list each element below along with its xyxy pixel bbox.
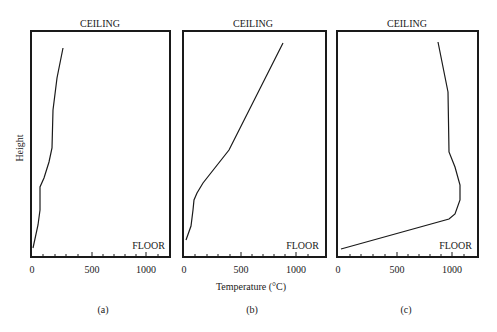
floor-label: FLOOR — [439, 240, 472, 251]
ceiling-label: CEILING — [80, 18, 120, 29]
panel-b: CEILING FLOOR 0 500 1000 Temperature (°C… — [182, 18, 327, 316]
tick-label-1000: 1000 — [286, 264, 306, 275]
tick-label-0: 0 — [182, 264, 187, 275]
tick-label-1000: 1000 — [442, 264, 462, 275]
figure: Height CEILING FLOOR 0 500 1000 (a) CEIL… — [0, 0, 497, 332]
tick-label-1000: 1000 — [136, 264, 156, 275]
temperature-curve — [186, 43, 283, 240]
panel-caption: (b) — [246, 304, 258, 316]
y-axis-label: Height — [14, 134, 25, 161]
panel-frame — [183, 31, 326, 257]
tick-label-500: 500 — [85, 264, 100, 275]
tick-label-0: 0 — [336, 264, 341, 275]
panel-caption: (c) — [400, 304, 411, 316]
tick-label-500: 500 — [234, 264, 249, 275]
floor-label: FLOOR — [286, 240, 319, 251]
panel-frame — [337, 31, 478, 257]
floor-label: FLOOR — [132, 240, 165, 251]
ceiling-label: CEILING — [233, 18, 273, 29]
tick-label-0: 0 — [30, 264, 35, 275]
ceiling-label: CEILING — [387, 18, 427, 29]
temperature-curve — [341, 42, 460, 249]
panel-caption: (a) — [97, 304, 108, 316]
x-axis-label: Temperature (°C) — [216, 281, 286, 293]
panel-c: CEILING FLOOR 0 500 1000 (c) — [336, 18, 479, 316]
tick-label-500: 500 — [390, 264, 405, 275]
temperature-curve — [33, 48, 63, 248]
panel-a: CEILING FLOOR 0 500 1000 (a) — [30, 18, 171, 316]
